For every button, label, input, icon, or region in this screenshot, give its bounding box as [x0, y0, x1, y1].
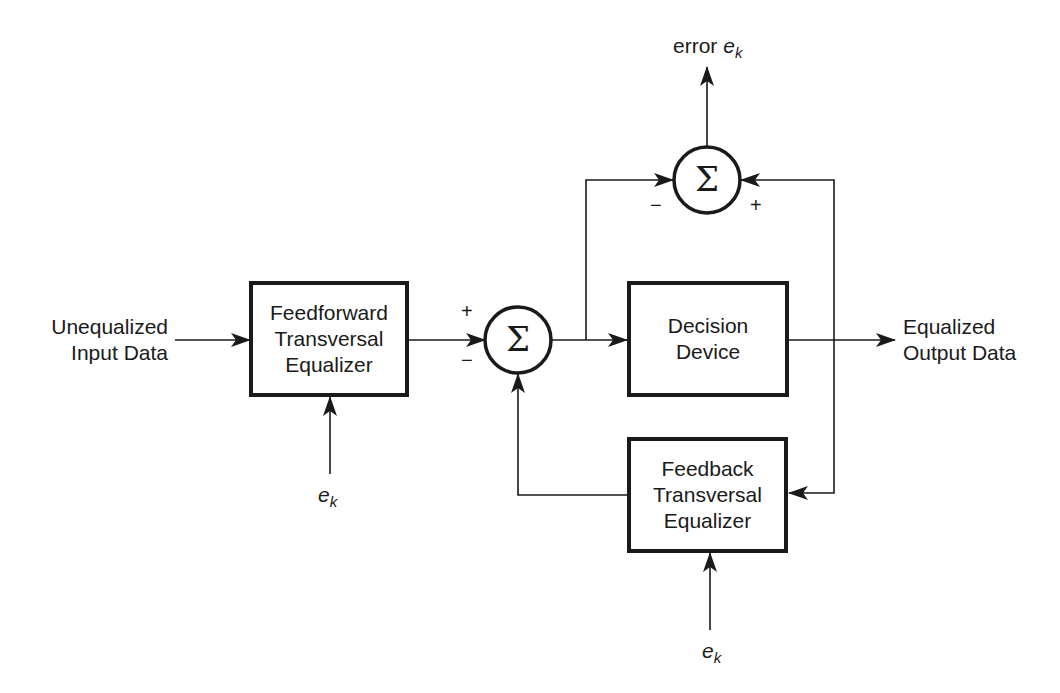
error-sub: k: [735, 44, 743, 61]
feedback-line1: Feedback: [653, 456, 762, 482]
decision-block-label: Decision Device: [629, 283, 787, 395]
main-summer-sigma: Σ: [488, 322, 548, 356]
decision-line2: Device: [668, 339, 749, 365]
output-label: Equalized Output Data: [903, 314, 1016, 366]
ff-ek-label: ek: [318, 482, 337, 515]
feedback-block-label: Feedback Transversal Equalizer: [629, 439, 786, 551]
decision-to-feedback-path: [789, 340, 834, 493]
error-var: e: [723, 34, 735, 57]
feedforward-block-label: Feedforward Transversal Equalizer: [251, 283, 407, 395]
fb-ek-var: e: [702, 639, 714, 662]
fb-ek-sub: k: [714, 649, 722, 666]
main-summer-minus-sign: −: [461, 350, 473, 370]
feedforward-line3: Equalizer: [270, 352, 388, 378]
error-output-label: error ek: [673, 33, 742, 66]
feedback-to-summer-path: [518, 374, 627, 495]
input-label-line2: Input Data: [0, 340, 168, 366]
output-label-line1: Equalized: [903, 314, 1016, 340]
fb-ek-label: ek: [702, 638, 721, 671]
feedback-line2: Transversal: [653, 482, 762, 508]
ff-ek-sub: k: [330, 493, 338, 510]
input-label: Unequalized Input Data: [0, 314, 168, 366]
output-label-line2: Output Data: [903, 340, 1016, 366]
feedforward-line1: Feedforward: [270, 300, 388, 326]
feedback-line3: Equalizer: [653, 508, 762, 534]
input-label-line1: Unequalized: [0, 314, 168, 340]
main-summer-plus-sign: +: [461, 301, 473, 321]
error-summer-minus-sign: −: [650, 195, 662, 215]
ff-ek-var: e: [318, 483, 330, 506]
error-prefix: error: [673, 34, 717, 57]
decision-line1: Decision: [668, 313, 749, 339]
feedforward-line2: Transversal: [270, 326, 388, 352]
error-summer-plus-sign: +: [750, 195, 762, 215]
error-summer-sigma: Σ: [677, 162, 737, 196]
